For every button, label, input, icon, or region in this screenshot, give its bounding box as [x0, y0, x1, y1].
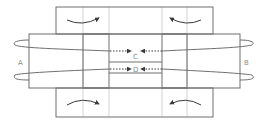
- label-C: C: [133, 53, 138, 61]
- top-flap: [56, 7, 213, 34]
- label-A: A: [18, 59, 23, 67]
- bottom-flap: [56, 88, 213, 117]
- middle-band: [29, 34, 240, 88]
- outline: [29, 7, 240, 117]
- curved-arrow-bottom-right: [170, 100, 201, 105]
- label-D: D: [133, 66, 138, 74]
- label-B: B: [244, 59, 249, 67]
- right-square: [162, 34, 187, 88]
- curved-arrow-top-right: [170, 18, 201, 23]
- left-square: [83, 34, 109, 88]
- folding-diagram: A B C D: [0, 0, 264, 128]
